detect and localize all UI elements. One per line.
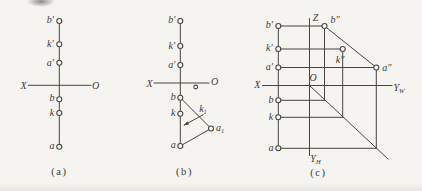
b-pt-k-prime (178, 44, 183, 49)
c-pt-b-prime (276, 24, 281, 29)
c-lbl-a: a (269, 142, 274, 153)
c-lbl-k-prime: k′ (266, 42, 273, 53)
b-pt-k (178, 111, 183, 116)
caption-b: (b) (176, 166, 193, 178)
a-lbl-b: b (50, 92, 55, 103)
c-lbl-a-prime: a′ (266, 61, 274, 72)
textbook-figure: b′k′a′bkaXO(a)b′k′a′bkaXOk1a1(b)b′k′a′bk… (0, 0, 422, 191)
b-lbl-axis-x: X (145, 78, 153, 89)
c-lbl-b-prime: b′ (266, 19, 274, 30)
c-pt-a-prime (276, 65, 281, 70)
c-lbl-a-dblprime: a″ (382, 62, 392, 73)
b-pt-a-prime (178, 63, 183, 68)
caption-c: (c) (310, 167, 326, 179)
c-lbl-axis-z: Z (313, 12, 319, 23)
a-lbl-axis-x: X (19, 80, 27, 91)
b-pt-unlabeled (194, 85, 198, 89)
b-lbl-a: a (171, 139, 176, 150)
a-lbl-b-prime: b′ (47, 14, 55, 25)
b-lbl-b-prime: b′ (168, 14, 176, 25)
b-lbl-axis-o: O (211, 76, 218, 87)
c-pt-b-dblprime (322, 24, 327, 29)
b-lbl-a-prime: a′ (168, 59, 176, 70)
a-lbl-k: k (50, 107, 55, 118)
a-pt-k (57, 111, 62, 116)
b-lbl-k-prime: k′ (168, 40, 175, 51)
b-pt-b (178, 95, 183, 100)
a-pt-b-prime (57, 19, 62, 24)
c-lbl-k-dblprime: k″ (336, 54, 345, 65)
c-lbl-b: b (269, 94, 274, 105)
a-lbl-k-prime: k′ (47, 38, 54, 49)
a-lbl-a-prime: a′ (47, 57, 55, 68)
c-pt-b (276, 98, 281, 103)
c-lbl-k: k (269, 111, 274, 122)
c-lbl-b-dblprime: b″ (330, 14, 340, 25)
a-pt-a (57, 144, 62, 149)
a-lbl-a: a (50, 140, 55, 151)
b-lbl-k: k (171, 107, 176, 118)
caption-a: (a) (51, 166, 67, 178)
c-lbl-axis-x: X (253, 79, 261, 90)
c-pt-k-dblprime (340, 47, 345, 52)
c-pt-k (276, 115, 281, 120)
b-pt-a1 (209, 126, 214, 131)
projection-diagram-svg: b′k′a′bkaXO(a)b′k′a′bkaXOk1a1(b)b′k′a′bk… (0, 0, 422, 191)
b-pt-a (178, 144, 183, 149)
c-pt-a (276, 146, 281, 151)
a-lbl-axis-o: O (92, 80, 99, 91)
a-pt-k-prime (57, 42, 62, 47)
paper-background (0, 0, 422, 191)
b-lbl-b: b (171, 91, 176, 102)
c-pt-k-prime (276, 47, 281, 52)
a-pt-b (57, 97, 62, 102)
c-lbl-origin-o: O (309, 72, 316, 83)
c-pt-a-dblprime (374, 65, 379, 70)
b-pt-b-prime (178, 19, 183, 24)
a-pt-a-prime (57, 60, 62, 65)
